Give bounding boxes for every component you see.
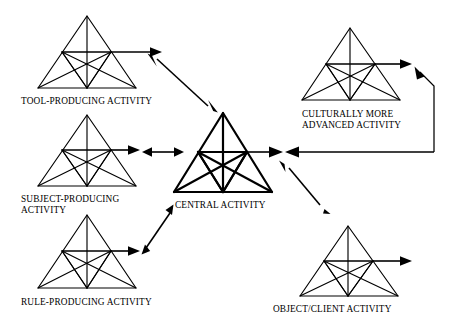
connector-central-to-object[interactable] xyxy=(279,161,331,215)
activity-network-diagram: TOOL-PRODUCING ACTIVITY SUBJECT-PRODUCIN… xyxy=(0,0,453,330)
connector-subject-to-central[interactable] xyxy=(142,147,184,157)
connector-loop-to-cultural[interactable] xyxy=(415,67,435,153)
culturally-more-advanced-activity-label-line2: ADVANCED ACTIVITY xyxy=(302,120,401,130)
central-activity-label: CENTRAL ACTIVITY xyxy=(175,200,266,210)
node-rule-producing-activity[interactable]: RULE-PRODUCING ACTIVITY xyxy=(21,215,152,307)
node-central-activity[interactable]: CENTRAL ACTIVITY xyxy=(174,113,283,210)
node-subject-producing-activity[interactable]: SUBJECT-PRODUCING ACTIVITY xyxy=(21,115,140,215)
subject-outcome-arrow-icon xyxy=(111,145,140,155)
central-outcome-arrow-icon xyxy=(247,147,283,158)
connector-tool-to-central[interactable] xyxy=(148,54,218,113)
tool-producing-activity-label: TOOL-PRODUCING ACTIVITY xyxy=(21,96,152,106)
node-culturally-more-advanced-activity[interactable]: CULTURALLY MORE ADVANCED ACTIVITY xyxy=(302,28,412,130)
node-tool-producing-activity[interactable]: TOOL-PRODUCING ACTIVITY xyxy=(21,16,162,106)
subject-producing-activity-label-line1: SUBJECT-PRODUCING xyxy=(21,194,119,204)
diagram-canvas: TOOL-PRODUCING ACTIVITY SUBJECT-PRODUCIN… xyxy=(0,0,453,330)
tool-outcome-arrow-icon xyxy=(111,47,162,57)
culturally-more-advanced-activity-label-line1: CULTURALLY MORE xyxy=(302,109,393,119)
object-client-activity-label: OBJECT/CLIENT ACTIVITY xyxy=(273,304,392,314)
node-object-client-activity[interactable]: OBJECT/CLIENT ACTIVITY xyxy=(273,226,412,314)
cultural-outcome-arrow-icon xyxy=(375,59,412,69)
subject-producing-activity-label-line2: ACTIVITY xyxy=(21,205,66,215)
connector-cultural-to-central[interactable] xyxy=(285,147,434,158)
rule-outcome-arrow-icon xyxy=(111,246,140,256)
object-outcome-arrow-icon xyxy=(373,256,412,266)
connector-rule-to-central[interactable] xyxy=(142,205,174,255)
rule-producing-activity-label: RULE-PRODUCING ACTIVITY xyxy=(21,297,152,307)
